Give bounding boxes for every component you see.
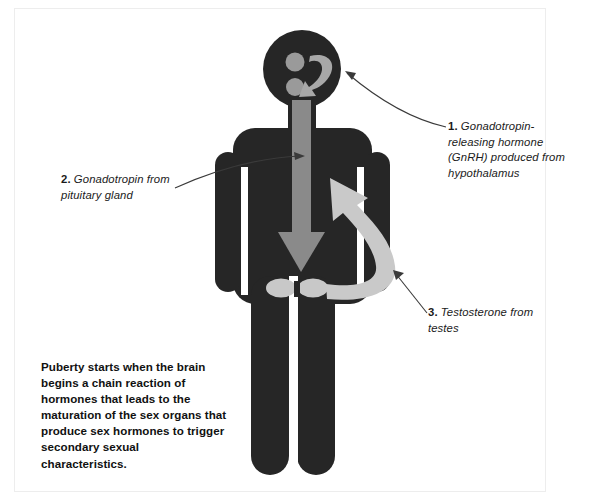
- callout-3-number: 3.: [428, 306, 438, 318]
- summary-paragraph: Puberty starts when the brain begins a c…: [41, 359, 227, 472]
- left-arm-gap: [241, 167, 248, 295]
- leg-gap: [289, 276, 298, 472]
- callout-1-number: 1.: [448, 120, 458, 132]
- callout-2-text: Gonadotropin from pituitary gland: [61, 173, 170, 201]
- left-testis: [266, 279, 296, 298]
- callout-2-number: 2.: [61, 173, 71, 185]
- pointer-line-3: [396, 274, 427, 313]
- left-arm: [215, 152, 241, 292]
- callout-3-text: Testosterone from testes: [428, 306, 533, 334]
- left-leg: [251, 276, 289, 475]
- testes-group: [266, 279, 328, 298]
- right-testis: [298, 279, 328, 298]
- pointer-arrowhead-3: [393, 270, 404, 280]
- diagram-page: 1. Gonadotropin-releasing hormone (GnRH)…: [0, 0, 590, 504]
- callout-2: 2. Gonadotropin from pituitary gland: [61, 172, 203, 203]
- callout-1: 1. Gonadotropin-releasing hormone (GnRH)…: [448, 119, 566, 181]
- pointer-line-1: [347, 73, 446, 127]
- callout-1-text: Gonadotropin-releasing hormone (GnRH) pr…: [448, 120, 565, 179]
- hypothalamus-dot: [286, 53, 305, 72]
- testes-divider: [294, 281, 300, 297]
- callout-3: 3. Testosterone from testes: [428, 305, 548, 336]
- right-leg: [297, 276, 335, 475]
